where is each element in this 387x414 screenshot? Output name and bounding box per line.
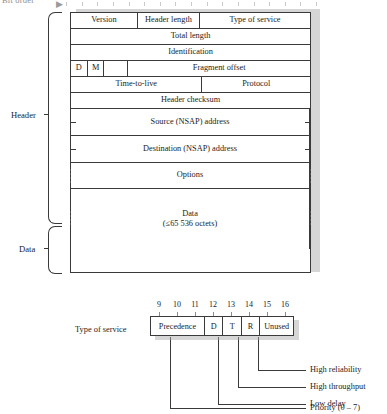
- variable-length-tick-left: [70, 149, 76, 150]
- tos-bit-number: 16: [281, 300, 289, 309]
- variable-length-tick-right: [305, 122, 311, 123]
- tos-bit-number: 14: [245, 300, 253, 309]
- header-section-label: Header: [11, 110, 36, 120]
- header-section-brace: [48, 12, 62, 224]
- field-dont-fragment-flag: D: [71, 61, 88, 76]
- bit-tick: [191, 2, 192, 6]
- tos-bit-number: 12: [209, 300, 217, 309]
- field-data: Data (≤65 536 octets): [71, 189, 310, 249]
- leader-line-vertical: [170, 340, 171, 408]
- tos-bit-number-row: 910111213141516: [150, 300, 294, 312]
- field-protocol: Protocol: [202, 77, 310, 92]
- variable-length-dots-right: [310, 169, 311, 183]
- tos-bit-number: 9: [157, 300, 161, 309]
- field-identification: Identification: [71, 45, 310, 60]
- header-brace-nub: [44, 114, 49, 115]
- tos-bit-number: 10: [173, 300, 181, 309]
- bit-tick: [129, 2, 130, 6]
- data-brace-nub: [44, 248, 49, 249]
- tos-field-reliability: R: [242, 317, 260, 335]
- data-section-label: Data: [19, 244, 35, 254]
- bit-order-label: Bit order: [2, 0, 34, 5]
- callout-high-reliability: High reliability: [310, 365, 361, 374]
- field-type-of-service: Type of service: [200, 13, 310, 28]
- field-header-checksum: Header checksum: [71, 93, 310, 108]
- tos-field-precedence: Precedence: [151, 317, 205, 335]
- field-options: Options: [71, 163, 310, 188]
- field-more-fragments-flag: M: [88, 61, 105, 76]
- tos-field-unused: Unused: [260, 317, 293, 335]
- bit-tick: [254, 2, 255, 6]
- bit-tick: [97, 2, 98, 6]
- leader-line-horizontal: [258, 370, 306, 371]
- field-total-length: Total length: [71, 29, 310, 44]
- tos-field-throughput: T: [223, 317, 241, 335]
- leader-line-horizontal: [238, 387, 306, 388]
- bit-tick: [300, 2, 301, 6]
- table-row: Options: [71, 163, 310, 189]
- field-data-label: Data: [182, 210, 198, 219]
- variable-length-dots-left: [70, 169, 71, 183]
- variable-length-tick-right: [305, 149, 311, 150]
- table-row: Identification: [71, 45, 310, 61]
- callout-high-throughput: High throughput: [310, 382, 366, 391]
- tos-field-table: Precedence D T R Unused: [150, 316, 294, 336]
- field-version: Version: [71, 13, 138, 28]
- table-row: Header checksum: [71, 93, 310, 109]
- bit-order-tick-marks: [66, 0, 316, 9]
- bit-tick: [160, 2, 161, 6]
- field-fragment-offset: Fragment offset: [128, 61, 310, 76]
- bit-tick: [175, 2, 176, 6]
- tos-bit-number: 15: [263, 300, 271, 309]
- callout-priority: Priority (0 – 7): [310, 403, 360, 412]
- field-data-size: (≤65 536 octets): [163, 220, 217, 229]
- leader-line-vertical: [218, 340, 219, 404]
- packet-header-table: Version Header length Type of service To…: [70, 12, 311, 273]
- field-time-to-live: Time-to-live: [71, 77, 202, 92]
- bit-tick: [82, 2, 83, 6]
- field-reserved-flag: [104, 61, 128, 76]
- variable-length-dots-right: [310, 211, 311, 225]
- figure-canvas: Bit order ▶ Version Header length Type o…: [0, 0, 387, 414]
- tos-caption: Type of service: [75, 325, 127, 334]
- table-row: Version Header length Type of service: [71, 13, 310, 29]
- variable-length-dots-left: [70, 211, 71, 225]
- leader-line-horizontal: [218, 404, 306, 405]
- bit-tick: [66, 2, 67, 6]
- tos-callouts: High reliability High throughput Low del…: [0, 336, 387, 414]
- bit-tick: [207, 2, 208, 6]
- bit-tick: [238, 2, 239, 6]
- bit-tick: [113, 2, 114, 6]
- bit-tick: [316, 2, 317, 6]
- table-row: Total length: [71, 29, 310, 45]
- leader-line-horizontal: [170, 408, 306, 409]
- table-row: Data (≤65 536 octets): [71, 189, 310, 249]
- tos-bit-number: 11: [191, 300, 199, 309]
- variable-length-tick-left: [70, 122, 76, 123]
- table-row: Destination (NSAP) address: [71, 136, 310, 163]
- tos-field-delay: D: [205, 317, 223, 335]
- leader-line-vertical: [238, 340, 239, 387]
- bit-tick: [144, 2, 145, 6]
- data-section-brace: [48, 226, 62, 274]
- field-header-length: Header length: [138, 13, 200, 28]
- table-row: D M Fragment offset: [71, 61, 310, 77]
- table-row: Time-to-live Protocol: [71, 77, 310, 93]
- bit-order-arrow-icon: ▶: [56, 1, 63, 7]
- field-destination-nsap-address: Destination (NSAP) address: [71, 136, 310, 162]
- bit-tick: [222, 2, 223, 6]
- bit-tick: [269, 2, 270, 6]
- field-source-nsap-address: Source (NSAP) address: [71, 109, 310, 135]
- table-row: Source (NSAP) address: [71, 109, 310, 136]
- tos-bit-number: 13: [227, 300, 235, 309]
- leader-line-vertical: [258, 340, 259, 370]
- bit-tick: [285, 2, 286, 6]
